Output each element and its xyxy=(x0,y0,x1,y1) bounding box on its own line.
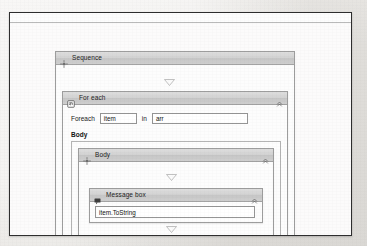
sequence-body[interactable]: For each Foreach xyxy=(56,65,294,235)
message-box-icon xyxy=(94,191,102,199)
for-each-header[interactable]: For each xyxy=(63,92,287,105)
drop-triangle-icon[interactable] xyxy=(164,79,175,86)
scanned-page: Sequence xyxy=(0,0,367,246)
foreach-item-input[interactable]: item xyxy=(100,113,137,124)
for-each-body: Foreach item in arr Body xyxy=(63,105,287,235)
sequence-title: Sequence xyxy=(72,52,102,64)
foreach-collection-input[interactable]: arr xyxy=(152,113,248,124)
foreach-label: Foreach xyxy=(71,114,95,123)
for-each-body-well[interactable]: Body xyxy=(71,141,281,235)
in-label: in xyxy=(142,114,147,123)
sequence-icon xyxy=(60,54,68,62)
message-box-header[interactable]: Message box xyxy=(90,189,262,202)
message-box-expression-input[interactable]: item.ToString xyxy=(95,206,255,218)
for-each-body-label: Body xyxy=(71,131,87,138)
workflow-designer-window: Sequence xyxy=(9,12,352,236)
message-box-title: Message box xyxy=(106,189,146,201)
body-content[interactable]: Message box xyxy=(79,162,273,235)
for-each-icon xyxy=(67,94,75,102)
drop-triangle-icon[interactable] xyxy=(166,174,177,181)
chevron-double-up-icon[interactable] xyxy=(251,191,258,199)
sequence-icon xyxy=(83,151,91,159)
drop-triangle-icon[interactable] xyxy=(166,226,177,233)
for-each-title: For each xyxy=(79,92,105,104)
chevron-double-up-icon[interactable] xyxy=(276,94,283,102)
sequence-header[interactable]: Sequence xyxy=(56,52,294,65)
activity-body[interactable]: Body xyxy=(78,148,274,235)
body-header[interactable]: Body xyxy=(79,149,273,162)
message-box-content: item.ToString xyxy=(90,202,262,221)
activity-sequence[interactable]: Sequence xyxy=(55,51,295,235)
toolbar-strip xyxy=(10,13,351,23)
chevron-double-up-icon[interactable] xyxy=(262,151,269,159)
activity-message-box[interactable]: Message box xyxy=(89,188,263,223)
body-title: Body xyxy=(95,149,110,161)
for-each-argument-row: Foreach item in arr xyxy=(71,113,248,124)
activity-for-each[interactable]: For each Foreach xyxy=(62,91,288,235)
designer-canvas[interactable]: Sequence xyxy=(10,23,351,235)
